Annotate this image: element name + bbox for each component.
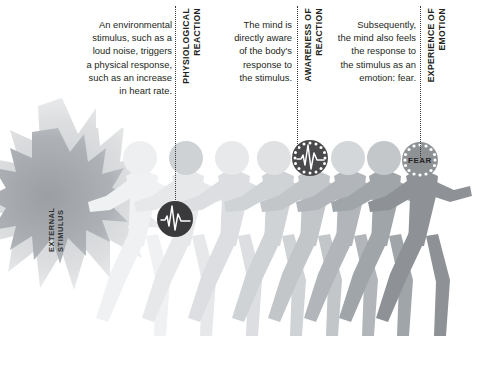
stage-paragraph-experience-of-emotion: Subsequently, the mind also feels the re… (330, 18, 416, 84)
stage-label-experience-of-emotion: EXPERIENCE OF EMOTION (426, 8, 448, 112)
stage-label-awareness-of-reaction: AWARENESS OF REACTION (303, 8, 325, 112)
stage-label-physiological-reaction: PHYSIOLOGICAL REACTION (181, 8, 203, 112)
diagram-canvas: EXTERNAL STIMULUS (0, 0, 502, 369)
runner-head (123, 141, 157, 175)
runner-head (257, 141, 291, 175)
runner-head (215, 141, 249, 175)
runner-head (331, 141, 365, 175)
stage-paragraph-awareness-of-reaction: The mind is directly aware of the body's… (222, 18, 292, 84)
external-stimulus-label: EXTERNAL STIMULUS (47, 205, 65, 252)
connector-line-experience-of-emotion (420, 6, 422, 158)
stage-paragraph-physiological-reaction: An environmental stimulus, such as a lou… (72, 18, 172, 97)
runner-head (367, 141, 401, 175)
connector-line-awareness-of-reaction (297, 6, 299, 158)
connector-line-physiological-reaction (175, 6, 177, 218)
